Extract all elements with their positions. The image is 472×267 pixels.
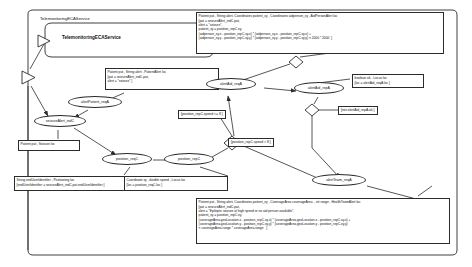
decision-diamond-ok — [305, 104, 319, 116]
outer-frame-label: TelemonitoringECAService — [40, 16, 90, 21]
edge-noteenduser-to-position — [124, 167, 130, 175]
edge-note-healthteam-top — [418, 186, 432, 196]
edge-rep-to-diamond — [212, 148, 228, 157]
note-patient-seizure: Patient pat , Seizure loc — [18, 140, 80, 151]
note-boolean-ok: boolean ok , Locus loc [loc = alertAid_r… — [352, 74, 424, 88]
port-triangle-left — [22, 71, 35, 84]
guard-speed-le: [position_repC.speed <= 8 ] — [178, 110, 226, 119]
diagram-canvas: TelemonitoringECAService TelemonitoringE… — [0, 0, 472, 267]
edge-alertaidrep-to-ok — [314, 97, 318, 104]
edge-seizure-to-position — [74, 128, 116, 155]
service-box-title: TelemonitoringECAService — [62, 35, 121, 40]
decision-diamond-right — [289, 56, 303, 68]
edge-notecoord-to-positionrep — [200, 167, 228, 176]
port-triangle-service — [38, 35, 50, 47]
note-aidperson: Patient pat , String alert, Coordinates … — [196, 12, 444, 54]
node-position-rep[interactable]: position_repC — [164, 153, 214, 165]
note-patientalert: Patient pat , String alert , PatientAler… — [105, 68, 219, 90]
node-alert-aid-rep[interactable]: alertAid_repA — [294, 82, 344, 94]
edge-service-to-left — [30, 44, 44, 69]
node-alert-aid-req[interactable]: alertAid_reqA — [206, 78, 256, 90]
edge-diamond-to-alertteam — [239, 144, 322, 180]
node-position-req[interactable]: position_reqC — [102, 153, 152, 165]
node-alert-patient-req[interactable]: alertPatient_reqA — [68, 96, 122, 108]
service-box — [45, 23, 213, 57]
node-alert-team-req[interactable]: alertTeam_reqA — [312, 174, 366, 186]
note-coordinate: Coordinate xy , double speed , Locus loc… — [124, 176, 228, 191]
edge-left-to-seizure — [31, 86, 48, 116]
edge-alertaid-req-to-rep — [264, 88, 296, 91]
node-seizure-alert-ind[interactable]: seizureAlert_indC — [34, 115, 86, 127]
edge-diamond-to-alertaid — [228, 96, 234, 136]
guard-not-ok: [not alertAid_repA.ok ] — [338, 106, 378, 115]
guard-speed-gt: [position_repC.speed > 8 ] — [228, 138, 274, 147]
edge-diamond-to-alertaid-req — [243, 64, 290, 80]
note-healthteam: Patient pat , String alert, Coordinates … — [196, 198, 450, 244]
